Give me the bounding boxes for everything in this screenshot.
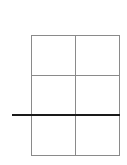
diagram-canvas bbox=[0, 0, 127, 165]
grid-row-divider-1 bbox=[32, 75, 119, 76]
horizontal-marker-line bbox=[12, 114, 120, 116]
grid-column-divider bbox=[75, 36, 76, 155]
grid-3x2 bbox=[31, 35, 120, 156]
